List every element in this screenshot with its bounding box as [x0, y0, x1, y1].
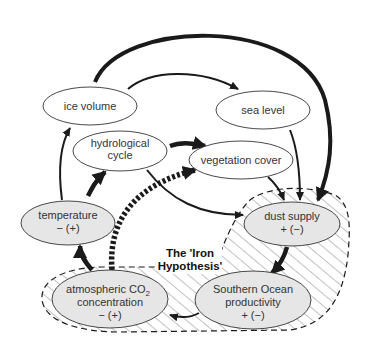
node-label: dust supply	[264, 210, 320, 222]
node-label: cycle	[107, 149, 132, 161]
edge-ice-to-sea	[128, 74, 238, 89]
node-label: productivity	[225, 296, 281, 308]
node-label: Southern Ocean	[213, 283, 293, 295]
node-label: + (−)	[280, 223, 303, 235]
node-vegetation-cover: vegetation cover	[189, 141, 293, 179]
node-ice-volume: ice volume	[43, 87, 137, 125]
edge-hydro-to-veg	[170, 143, 205, 146]
node-atmospheric-co2: atmospheric CO2 concentration − (+)	[52, 270, 168, 328]
node-label: ice volume	[64, 100, 117, 112]
title-line-1: The 'Iron	[166, 247, 214, 259]
node-temperature: temperature − (+)	[21, 201, 115, 245]
node-dust-supply: dust supply + (−)	[244, 202, 340, 246]
node-label: concentration	[77, 296, 143, 308]
edge-co2-to-temp	[80, 246, 92, 270]
edge-temp-to-ice	[60, 128, 70, 200]
node-label: temperature	[38, 209, 97, 221]
node-label: sea level	[241, 104, 284, 116]
node-label: vegetation cover	[201, 154, 282, 166]
node-label: − (+)	[56, 222, 79, 234]
node-label: + (−)	[241, 309, 264, 321]
node-sea-level: sea level	[216, 91, 310, 129]
iron-hypothesis-label: The 'Iron Hypothesis'	[158, 246, 223, 274]
node-label: hydrological	[91, 137, 150, 149]
iron-hypothesis-diagram: ice volume hydrological cycle sea level …	[0, 0, 367, 356]
node-label: − (+)	[98, 309, 121, 321]
node-southern-ocean: Southern Ocean productivity + (−)	[195, 271, 311, 329]
title-line-2: Hypothesis'	[158, 260, 223, 272]
edge-temp-to-hydro	[88, 172, 105, 196]
node-hydrological-cycle: hydrological cycle	[73, 131, 167, 171]
